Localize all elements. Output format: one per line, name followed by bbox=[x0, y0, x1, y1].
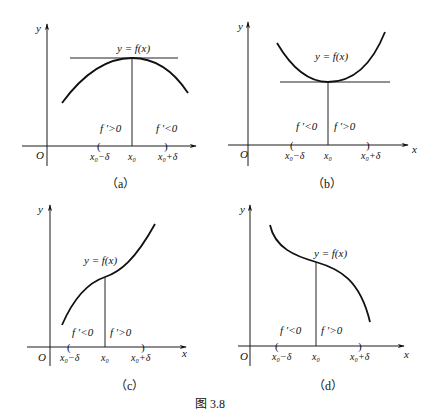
curve-label: y = f(x) bbox=[83, 254, 117, 267]
y-axis-label: y bbox=[35, 22, 41, 34]
figure-caption: 图 3.8 bbox=[195, 397, 225, 411]
origin-label: O bbox=[36, 149, 44, 161]
x-axis-label: x bbox=[403, 348, 409, 360]
y-axis-label: y bbox=[37, 203, 43, 215]
panel-label: （b） bbox=[312, 177, 342, 191]
panel-label: （a） bbox=[106, 177, 135, 191]
panel-label: （c） bbox=[115, 379, 144, 393]
tick-label-center: x₀ bbox=[311, 351, 320, 362]
tick-label-right: x₀+δ bbox=[349, 351, 370, 362]
curve-label: y = f(x) bbox=[116, 42, 150, 55]
panel-c: ( ) y x y = f(x) f ′<0 f ′>0 O x₀−δ x₀ x… bbox=[27, 203, 187, 393]
curve-label: y = f(x) bbox=[313, 247, 347, 260]
tick-label-left: x₀−δ bbox=[284, 150, 305, 161]
x-axis-label: x bbox=[181, 347, 187, 359]
curve bbox=[62, 224, 155, 325]
right-derivative-label: f ′>0 bbox=[110, 326, 132, 338]
panel-a: ( ) y y = f(x) f ′>0 f ′<0 O x₀−δ x₀ x₀+… bbox=[22, 22, 196, 191]
curve bbox=[62, 58, 188, 103]
tick-label-right: x₀+δ bbox=[130, 352, 151, 363]
panel-label: （d） bbox=[313, 379, 343, 393]
panel-b: ( ) y x y = f(x) f ′<0 f ′>0 O x₀−δ x₀ x… bbox=[228, 20, 417, 191]
tick-label-center: x₀ bbox=[127, 151, 136, 162]
curve bbox=[270, 225, 370, 322]
curve-label: y = f(x) bbox=[314, 50, 348, 63]
x-axis-label: x bbox=[411, 143, 417, 155]
tick-label-center: x₀ bbox=[100, 352, 109, 363]
figure-3-8: ( ) y y = f(x) f ′>0 f ′<0 O x₀−δ x₀ x₀+… bbox=[0, 0, 424, 417]
origin-label: O bbox=[240, 350, 248, 362]
tick-label-center: x₀ bbox=[323, 150, 332, 161]
right-derivative-label: f ′>0 bbox=[321, 324, 343, 336]
left-derivative-label: f ′<0 bbox=[296, 120, 318, 132]
y-axis-label: y bbox=[237, 20, 243, 32]
tick-label-right: x₀+δ bbox=[157, 151, 178, 162]
tick-label-left: x₀−δ bbox=[271, 351, 292, 362]
tick-label-right: x₀+δ bbox=[360, 150, 381, 161]
left-derivative-label: f ′<0 bbox=[280, 324, 302, 336]
tick-label-left: x₀−δ bbox=[89, 151, 110, 162]
left-derivative-label: f ′>0 bbox=[100, 122, 122, 134]
origin-label: O bbox=[240, 148, 248, 160]
y-axis-label: y bbox=[239, 203, 245, 215]
left-derivative-label: f ′<0 bbox=[72, 326, 94, 338]
origin-label: O bbox=[38, 351, 46, 363]
tick-label-left: x₀−δ bbox=[59, 352, 80, 363]
right-derivative-label: f ′<0 bbox=[156, 122, 178, 134]
right-derivative-label: f ′>0 bbox=[334, 120, 356, 132]
panel-d: ( ) y x y = f(x) f ′<0 f ′>0 O x₀−δ x₀ x… bbox=[238, 203, 409, 393]
